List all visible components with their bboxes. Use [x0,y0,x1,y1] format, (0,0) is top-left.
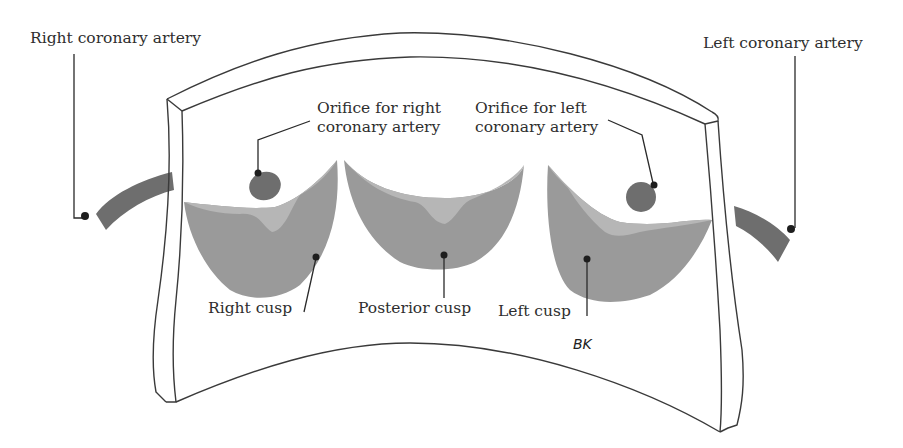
right-coronary-artery-vessel [96,172,174,230]
aortic-valve-diagram: Right coronary artery Left coronary arte… [0,0,903,448]
posterior-cusp-dot [441,252,448,259]
orifice-right-dot [255,170,262,177]
label-right-cusp: Right cusp [208,299,292,317]
label-orifice-left-line2: coronary artery [475,118,599,136]
label-orifice-right-line1: Orifice for right [317,99,442,117]
right-coronary-artery-leader [74,54,84,218]
label-orifice-left-line1: Orifice for left [475,99,587,117]
orifice-left-dot [651,182,658,189]
left-cusp-dot [584,256,591,263]
left-coronary-artery-dot [787,225,795,233]
artist-signature: BK [573,336,594,352]
label-left-coronary-artery: Left coronary artery [703,34,863,52]
label-right-coronary-artery: Right coronary artery [30,29,201,47]
right-coronary-artery-dot [81,212,89,220]
left-coronary-artery-vessel [734,206,790,262]
right-cusp-dot [313,254,320,261]
label-left-cusp: Left cusp [498,302,571,320]
label-orifice-right-line2: coronary artery [317,118,441,136]
label-posterior-cusp: Posterior cusp [358,299,471,317]
